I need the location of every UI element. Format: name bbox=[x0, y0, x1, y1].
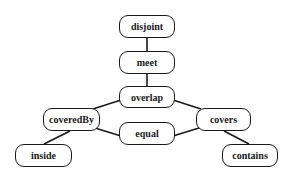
edge-coveredBy-equal bbox=[95, 128, 121, 136]
node-covers: covers bbox=[196, 108, 251, 131]
edge-coveredBy-inside bbox=[44, 131, 70, 144]
node-inside: inside bbox=[15, 144, 72, 167]
node-overlap: overlap bbox=[119, 86, 175, 108]
node-equal: equal bbox=[119, 122, 175, 145]
node-label: equal bbox=[135, 128, 158, 139]
node-label: overlap bbox=[131, 92, 163, 103]
node-label: meet bbox=[137, 57, 158, 68]
edge-covers-contains bbox=[224, 131, 249, 144]
edge-overlap-covers bbox=[173, 100, 201, 109]
edge-overlap-coveredBy bbox=[93, 100, 121, 109]
node-label: coveredBy bbox=[49, 114, 94, 125]
node-coveredBy: coveredBy bbox=[43, 108, 100, 131]
node-meet: meet bbox=[119, 51, 175, 74]
node-label: covers bbox=[210, 114, 237, 125]
node-disjoint: disjoint bbox=[119, 15, 175, 38]
node-label: inside bbox=[31, 150, 56, 161]
node-contains: contains bbox=[222, 144, 278, 167]
relation-lattice-diagram: disjointmeetoverlapcoveredBycoversequali… bbox=[0, 0, 293, 178]
node-label: contains bbox=[232, 150, 268, 161]
node-label: disjoint bbox=[131, 21, 163, 32]
edge-covers-equal bbox=[173, 128, 199, 136]
